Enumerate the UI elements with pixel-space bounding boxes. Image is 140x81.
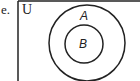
set-b-label: B (79, 37, 87, 51)
venn-diagram: U A B (0, 0, 140, 81)
universal-set-label: U (22, 2, 32, 17)
set-a-label: A (79, 9, 88, 23)
